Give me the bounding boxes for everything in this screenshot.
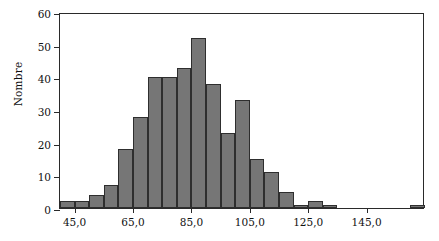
y-tick-mark	[54, 177, 60, 178]
y-tick-label: 30	[38, 106, 51, 118]
chart-root: Nombre 0102030405060 45,065,085,0105,012…	[0, 0, 439, 241]
x-tick-label: 105,0	[235, 216, 265, 228]
x-tick-label: 45,0	[63, 216, 86, 228]
x-tick-label: 65,0	[121, 216, 144, 228]
histogram-bar	[75, 201, 90, 208]
y-tick-mark	[54, 47, 60, 48]
histogram-bar	[308, 201, 323, 208]
histogram-bar	[177, 68, 192, 208]
x-tick-mark	[308, 208, 309, 213]
y-tick-mark	[54, 79, 60, 80]
histogram-bar	[294, 205, 309, 208]
x-tick-mark	[191, 208, 192, 213]
plot-inner: 0102030405060 45,065,085,0105,0125,0145,…	[60, 14, 423, 208]
y-tick-label: 10	[38, 171, 51, 183]
y-tick-label: 60	[38, 8, 51, 20]
histogram-bar	[250, 159, 265, 208]
y-axis-title: Nombre	[12, 44, 24, 124]
histogram-bar	[279, 192, 294, 208]
y-tick-label: 0	[44, 204, 51, 216]
histogram-bars	[60, 14, 423, 208]
histogram-bar	[410, 205, 425, 208]
histogram-bar	[191, 38, 206, 208]
histogram-bar	[323, 205, 338, 208]
y-tick-label: 50	[38, 41, 51, 53]
x-tick-mark	[133, 208, 134, 213]
x-tick-mark	[75, 208, 76, 213]
y-tick-label: 40	[38, 73, 51, 85]
x-tick-label: 85,0	[180, 216, 203, 228]
x-tick-label: 125,0	[293, 216, 323, 228]
histogram-bar	[89, 195, 104, 208]
plot-area: 0102030405060 45,065,085,0105,0125,0145,…	[59, 13, 424, 209]
y-tick-mark	[54, 145, 60, 146]
histogram-bar	[104, 185, 119, 208]
x-tick-mark	[250, 208, 251, 213]
x-tick-label: 145,0	[352, 216, 382, 228]
histogram-bar	[60, 201, 75, 208]
histogram-bar	[264, 172, 279, 208]
histogram-bar	[133, 117, 148, 208]
y-tick-mark	[54, 210, 60, 211]
histogram-bar	[162, 77, 177, 208]
histogram-bar	[235, 100, 250, 208]
histogram-bar	[148, 77, 163, 208]
y-tick-mark	[54, 14, 60, 15]
y-tick-label: 20	[38, 139, 51, 151]
histogram-bar	[118, 149, 133, 208]
y-tick-mark	[54, 112, 60, 113]
histogram-bar	[221, 133, 236, 208]
histogram-bar	[206, 84, 221, 208]
x-tick-mark	[367, 208, 368, 213]
